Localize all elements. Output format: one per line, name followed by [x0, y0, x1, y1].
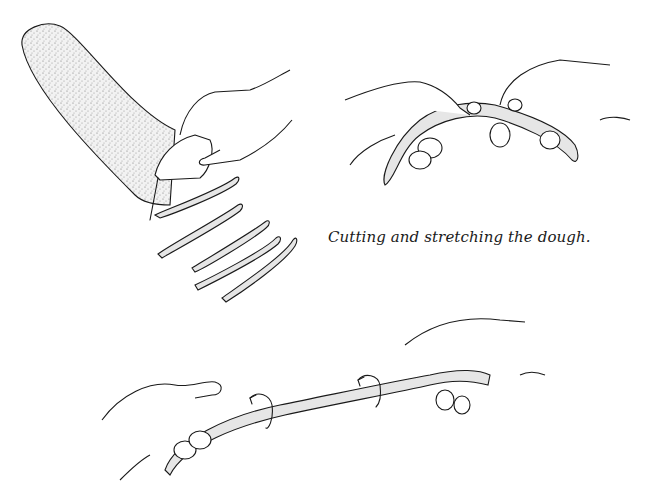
arrowhead-left: [250, 395, 256, 404]
hand-right-stretch: [500, 60, 630, 120]
finger-twist-right-1: [436, 390, 454, 410]
finger-twist-right-2: [454, 396, 470, 414]
figure-caption: Cutting and stretching the dough.: [328, 228, 591, 246]
stretching-dough-panel: [345, 60, 630, 185]
thumb-right: [508, 99, 522, 111]
finger-right-2: [540, 131, 560, 149]
twisting-dough-panel: [102, 319, 545, 480]
hand-right-twist: [405, 319, 545, 375]
hand-left-stretch: [345, 82, 470, 165]
illustration: [0, 0, 656, 503]
dough-loaf: [22, 24, 175, 205]
finger-right-1: [490, 123, 510, 147]
finger-twist-left-2: [189, 431, 211, 449]
cutting-dough-panel: [22, 24, 297, 302]
thumb-left: [467, 102, 481, 114]
finger-left-2: [409, 151, 431, 169]
